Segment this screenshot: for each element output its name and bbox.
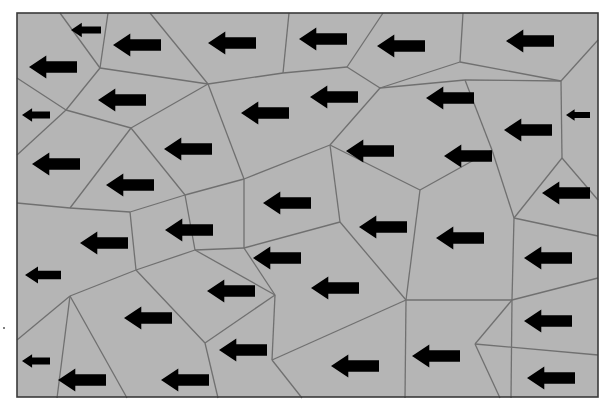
voronoi-diagram <box>0 0 603 407</box>
stray-mark <box>3 327 5 329</box>
